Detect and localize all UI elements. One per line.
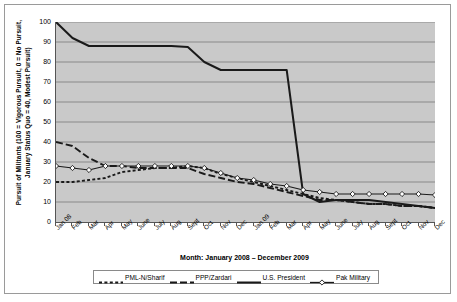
series-marker xyxy=(334,191,339,196)
legend-entry: PML-N/Sharif xyxy=(98,271,169,283)
series-marker xyxy=(366,191,371,196)
y-axis-tick-labels: 1009080706050403020100 xyxy=(24,0,51,302)
chart-figure: Pursuit of Militants (100 = Vigorous Pur… xyxy=(0,0,457,302)
x-axis-tick-labels: Jan 08FebMarAprMayJuneJulyAugSeptOctNovD… xyxy=(55,223,434,253)
legend-swatch xyxy=(169,273,195,282)
y-tick-label: 100 xyxy=(29,18,51,25)
plot-lines xyxy=(56,22,435,222)
y-tick-label: 90 xyxy=(29,38,51,45)
series-marker xyxy=(218,170,223,175)
legend-label: PPP/Zardari xyxy=(196,274,232,281)
series-marker xyxy=(301,187,306,192)
series-marker xyxy=(416,191,421,196)
plot-area xyxy=(55,22,435,223)
y-tick-label: 60 xyxy=(29,98,51,105)
legend-swatch xyxy=(98,273,124,282)
legend-entry: PPP/Zardari xyxy=(169,271,236,283)
series-marker xyxy=(86,167,91,172)
y-tick-label: 0 xyxy=(29,218,51,225)
series-marker xyxy=(432,192,435,197)
y-tick-label: 40 xyxy=(29,138,51,145)
x-axis-title: Month: January 2008 – December 2009 xyxy=(55,254,434,261)
series-marker xyxy=(383,191,388,196)
legend-label: U.S. President xyxy=(263,274,306,281)
y-tick-label: 30 xyxy=(29,158,51,165)
y-tick-label: 70 xyxy=(29,78,51,85)
y-tick-label: 50 xyxy=(29,118,51,125)
y-tick-label: 10 xyxy=(29,198,51,205)
legend-entry: Pak Military xyxy=(309,271,374,283)
y-tick-label: 20 xyxy=(29,178,51,185)
series-marker xyxy=(119,163,124,168)
legend-label: Pak Military xyxy=(336,274,370,281)
legend-swatch xyxy=(236,273,262,282)
series-marker xyxy=(399,191,404,196)
legend-label: PML-N/Sharif xyxy=(125,274,165,281)
y-tick-label: 80 xyxy=(29,58,51,65)
chart-legend: PML-N/SharifPPP/ZardariU.S. PresidentPak… xyxy=(93,270,379,284)
series-marker xyxy=(235,175,240,180)
legend-swatch xyxy=(309,273,335,282)
series-marker xyxy=(317,189,322,194)
legend-entry: U.S. President xyxy=(236,271,310,283)
series-marker xyxy=(202,165,207,170)
series-marker xyxy=(70,165,75,170)
series-marker xyxy=(56,163,59,168)
series-marker xyxy=(350,191,355,196)
series-marker xyxy=(284,183,289,188)
